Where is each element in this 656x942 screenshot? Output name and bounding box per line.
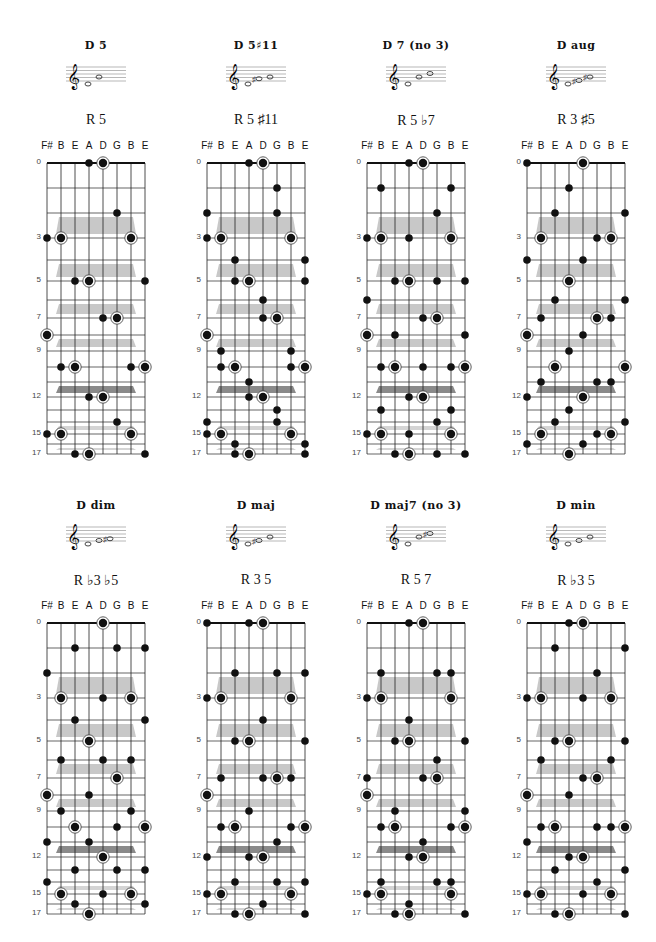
note-dot [621,737,629,745]
root-note-dot [621,823,629,831]
note-dot [579,694,587,702]
root-note-dot [593,774,601,782]
root-note-dot [537,890,545,898]
note-dot [621,910,629,918]
whole-note-icon [565,542,571,546]
fret-inlay-band [536,908,616,910]
chord-diagram: D minR ♭3 5F#BEADGBE03579121517𝄞 [0,0,656,942]
treble-clef-icon: 𝄞 [547,524,560,550]
note-dot [593,669,601,677]
note-dot [523,890,531,898]
fret-inlay-band [536,886,616,890]
root-note-dot [607,890,615,898]
note-dot [593,878,601,886]
fret-inlay-band [536,724,616,737]
note-dot [565,619,573,627]
note-dot [523,838,531,846]
note-dot [537,756,545,764]
fret-inlay-band [536,764,616,774]
note-dot [565,791,573,799]
note-dot [551,866,559,874]
fret-inlay-band [536,799,616,807]
note-dot [523,694,531,702]
fretboard: 𝄞 [0,0,656,942]
note-dot [551,644,559,652]
note-dot [621,644,629,652]
fret-inlay-band [536,846,616,853]
note-dot [551,737,559,745]
note-dot [579,890,587,898]
note-dot [551,910,559,918]
note-dot [621,866,629,874]
root-note-dot [551,823,559,831]
root-note-dot [579,619,587,627]
fret-inlay-band [536,677,616,694]
music-staff: 𝄞 [546,524,606,550]
root-note-dot [565,910,573,918]
note-dot [607,823,615,831]
root-note-dot [523,791,531,799]
root-note-dot [537,694,545,702]
whole-note-icon [576,539,582,543]
root-note-dot [607,694,615,702]
note-dot [565,853,573,861]
note-dot [607,756,615,764]
whole-note-icon [587,535,593,539]
root-note-dot [579,853,587,861]
note-dot [537,823,545,831]
root-note-dot [565,737,573,745]
note-dot [593,823,601,831]
note-dot [579,774,587,782]
